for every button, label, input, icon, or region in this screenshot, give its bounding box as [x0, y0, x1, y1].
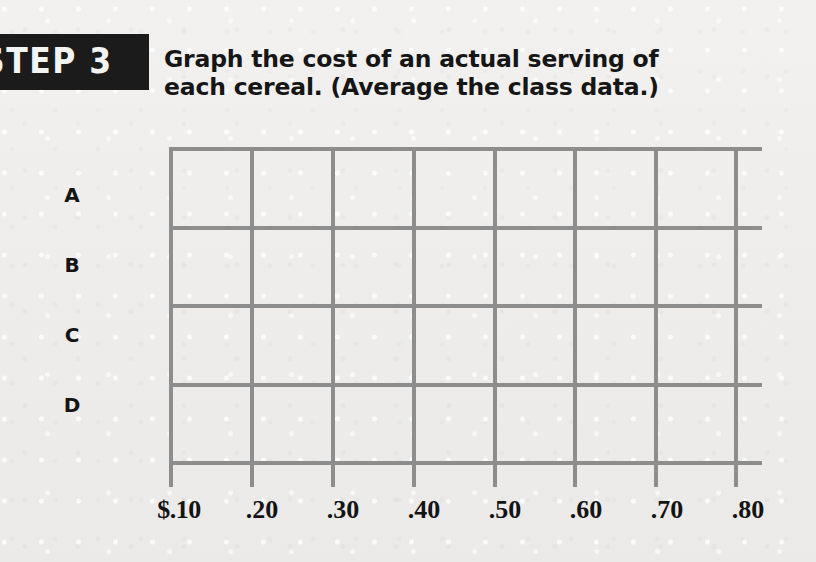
step-banner: STEP 3 — [0, 34, 149, 90]
row-label-b: B — [58, 253, 86, 277]
grid-lines — [169, 147, 762, 487]
row-label-a: A — [58, 183, 86, 207]
x-tick-label-8: .80 — [698, 495, 798, 525]
page-title-line-1: Graph the cost of an actual serving of — [164, 45, 724, 73]
row-label-d: D — [58, 393, 86, 417]
page-title-line-2: each cereal. (Average the class data.) — [164, 73, 724, 101]
step-banner-label: STEP 3 — [0, 41, 113, 81]
page-title: Graph the cost of an actual serving of e… — [164, 45, 724, 101]
row-label-c: C — [58, 323, 86, 347]
worksheet-page: STEP 3 Graph the cost of an actual servi… — [0, 0, 816, 562]
